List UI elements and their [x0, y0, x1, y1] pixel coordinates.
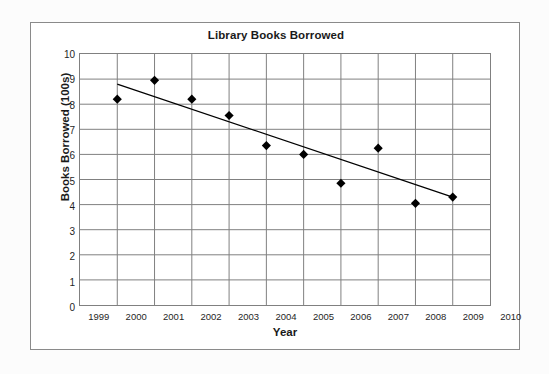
trend-line: [117, 84, 452, 197]
x-axis-tick-label: 2004: [275, 311, 296, 322]
y-axis-tick-label: 1: [69, 276, 75, 287]
y-axis-title: Books Borrowed (100s): [59, 17, 71, 257]
data-point-marker: [336, 179, 345, 188]
data-point-marker: [411, 199, 420, 208]
x-axis-tick-label: 2006: [350, 311, 371, 322]
x-axis-tick-label: 2002: [201, 311, 222, 322]
chart-title: Library Books Borrowed: [31, 29, 521, 41]
data-point-marker: [150, 76, 159, 85]
x-axis-tick-label: 2009: [463, 311, 484, 322]
chart-container: Library Books Borrowed 109876543210 1999…: [30, 22, 520, 350]
y-axis-tick-label: 0: [69, 302, 75, 313]
x-axis-tick-label: 2000: [126, 311, 147, 322]
x-axis-tick-label: 2010: [500, 311, 521, 322]
x-axis-tick-label: 2007: [388, 311, 409, 322]
x-axis-tick-label: 2005: [313, 311, 334, 322]
chart-grid-and-data: [80, 54, 490, 305]
x-axis-tick-label: 1999: [88, 311, 109, 322]
data-point-marker: [374, 144, 383, 153]
data-point-markers: [113, 76, 458, 208]
x-axis-title: Year: [79, 326, 491, 338]
trend-line-segment: [117, 84, 452, 197]
x-axis-tick-label: 2003: [238, 311, 259, 322]
data-point-marker: [299, 150, 308, 159]
x-axis-tick-label: 2001: [163, 311, 184, 322]
x-axis-tick-label: 2008: [425, 311, 446, 322]
data-point-marker: [113, 95, 122, 104]
plot-area: 109876543210 199920002001200220032004200…: [79, 53, 491, 306]
data-point-marker: [187, 95, 196, 104]
data-point-marker: [262, 141, 271, 150]
data-point-marker: [225, 111, 234, 120]
data-point-marker: [448, 193, 457, 202]
